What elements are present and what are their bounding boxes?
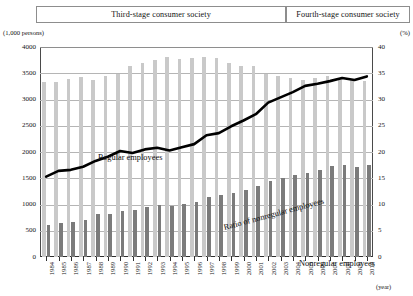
x-label-1984: 1984 <box>49 262 56 275</box>
x-axis-caption: (year) <box>376 283 391 290</box>
x-tick-1994 <box>170 257 171 261</box>
x-tick-2002 <box>268 257 269 261</box>
y-tick-left-3500: 3500 <box>22 70 36 77</box>
x-tick-1993 <box>157 257 158 261</box>
x-label-1990: 1990 <box>123 262 130 275</box>
x-label-1996: 1996 <box>197 262 204 275</box>
x-label-2010: 2010 <box>369 262 376 275</box>
x-label-1993: 1993 <box>160 262 167 275</box>
x-tick-1995 <box>182 257 183 261</box>
x-label-2005: 2005 <box>308 262 315 275</box>
x-tick-1986 <box>71 257 72 261</box>
x-tick-1996 <box>194 257 195 261</box>
chart-plot-area: 05001000150020002500300035004000 0510152… <box>40 47 373 257</box>
x-tick-1992 <box>145 257 146 261</box>
ratio-line-series <box>40 47 373 257</box>
x-label-1995: 1995 <box>184 262 191 275</box>
x-label-2008: 2008 <box>345 262 352 275</box>
x-tick-1989 <box>108 257 109 261</box>
y-tick-left-1000: 1000 <box>22 201 36 208</box>
x-tick-1987 <box>83 257 84 261</box>
x-tick-2004 <box>293 257 294 261</box>
right-axis-unit: (%) <box>400 29 410 36</box>
banner-third-stage: Third-stage consumer society <box>36 6 286 23</box>
y-tick-right-35: 35 <box>378 70 385 77</box>
x-tick-1990 <box>120 257 121 261</box>
y-tick-right-0: 0 <box>378 254 382 261</box>
x-label-2000: 2000 <box>246 262 253 275</box>
x-label-2001: 2001 <box>258 262 265 275</box>
y-tick-right-15: 15 <box>378 175 385 182</box>
x-tick-2003 <box>281 257 282 261</box>
y-tick-left-0: 0 <box>33 254 37 261</box>
x-tick-1985 <box>59 257 60 261</box>
y-tick-left-2500: 2500 <box>22 122 36 129</box>
banner-fourth-stage: Fourth-stage consumer society <box>286 6 410 23</box>
x-label-2003: 2003 <box>283 262 290 275</box>
x-label-2006: 2006 <box>320 262 327 275</box>
y-tick-right-40: 40 <box>378 44 385 51</box>
stage-banner-row: Third-stage consumer society Fourth-stag… <box>36 6 410 23</box>
y-tick-left-2000: 2000 <box>22 149 36 156</box>
x-label-1989: 1989 <box>110 262 117 275</box>
x-label-1997: 1997 <box>209 262 216 275</box>
x-label-1999: 1999 <box>234 262 241 275</box>
x-label-1985: 1985 <box>61 262 68 275</box>
x-tick-2000 <box>244 257 245 261</box>
x-tick-1988 <box>96 257 97 261</box>
x-label-1986: 1986 <box>73 262 80 275</box>
x-label-2002: 2002 <box>271 262 278 275</box>
y-tick-right-25: 25 <box>378 122 385 129</box>
y-tick-right-30: 30 <box>378 96 385 103</box>
y-tick-right-5: 5 <box>378 227 382 234</box>
y-tick-right-20: 20 <box>378 149 385 156</box>
x-label-1988: 1988 <box>98 262 105 275</box>
x-tick-1984 <box>46 257 47 261</box>
y-tick-right-10: 10 <box>378 201 385 208</box>
x-axis-labels: 1984198519861987198819891990199119921993… <box>40 262 373 292</box>
y-tick-left-3000: 3000 <box>22 96 36 103</box>
x-tick-1991 <box>133 257 134 261</box>
x-label-1998: 1998 <box>221 262 228 275</box>
x-tick-2001 <box>256 257 257 261</box>
y-tick-left-500: 500 <box>26 227 37 234</box>
x-label-1992: 1992 <box>147 262 154 275</box>
x-label-2007: 2007 <box>332 262 339 275</box>
x-label-1991: 1991 <box>135 262 142 275</box>
x-label-2009: 2009 <box>357 262 364 275</box>
annotation-regular-employees: Regular employees <box>98 153 162 162</box>
x-tick-1997 <box>207 257 208 261</box>
x-label-1994: 1994 <box>172 262 179 275</box>
x-tick-1999 <box>231 257 232 261</box>
left-axis-unit: (1,000 persons) <box>3 29 44 36</box>
x-label-1987: 1987 <box>86 262 93 275</box>
x-label-2004: 2004 <box>295 262 302 275</box>
y-tick-left-4000: 4000 <box>22 44 36 51</box>
x-tick-1998 <box>219 257 220 261</box>
y-tick-left-1500: 1500 <box>22 175 36 182</box>
